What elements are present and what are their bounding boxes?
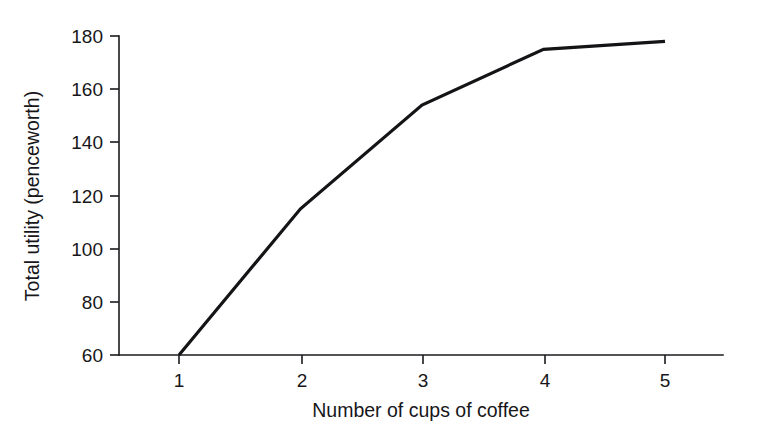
y-tick-label-80: 80: [82, 292, 103, 313]
y-tick-label-60: 60: [82, 345, 103, 366]
y-axis-title: Total utility (penceworth): [21, 91, 43, 301]
x-tick-label-3: 3: [418, 370, 429, 391]
y-tick-label-120: 120: [71, 186, 103, 207]
x-tick-label-4: 4: [540, 370, 551, 391]
y-tick-label-180: 180: [71, 26, 103, 47]
total-utility-line-chart: 180 160 140 120 100 80 60 1 2 3 4 5 Numb…: [0, 0, 760, 431]
x-tick-label-2: 2: [297, 370, 308, 391]
y-tick-label-160: 160: [71, 79, 103, 100]
x-tick-labels: 1 2 3 4 5: [174, 370, 671, 391]
x-tick-marks: [179, 355, 665, 364]
x-tick-label-1: 1: [174, 370, 185, 391]
x-axis-title: Number of cups of coffee: [312, 399, 530, 421]
y-tick-marks: [110, 36, 119, 355]
y-tick-labels: 180 160 140 120 100 80 60: [71, 26, 103, 366]
y-tick-label-100: 100: [71, 239, 103, 260]
total-utility-series-line: [179, 41, 665, 355]
axis-group: [119, 36, 723, 355]
y-tick-label-140: 140: [71, 132, 103, 153]
x-tick-label-5: 5: [660, 370, 671, 391]
chart-page: 180 160 140 120 100 80 60 1 2 3 4 5 Numb…: [0, 0, 760, 431]
